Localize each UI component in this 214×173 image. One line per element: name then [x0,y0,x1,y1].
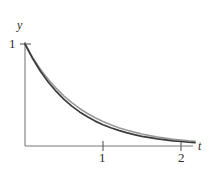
y-axis-label: y [17,19,22,31]
decay-curve-lower [25,44,195,143]
figure-container: y t 1 1 2 [0,0,214,173]
plot-canvas [0,0,214,173]
x-tick-label-2: 2 [178,151,185,164]
x-tick-label-1: 1 [99,151,106,164]
y-tick-label-1: 1 [9,37,16,50]
t-axis-label: t [198,140,201,152]
